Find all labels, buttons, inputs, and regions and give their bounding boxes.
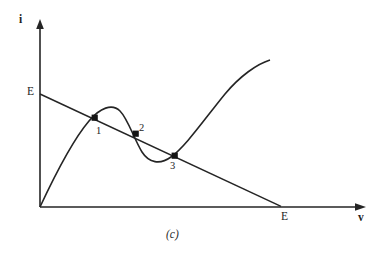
y-intercept-label: E bbox=[27, 86, 34, 98]
x-axis-label: v bbox=[358, 212, 364, 224]
figure-container: i E E v 1 2 3 (c) bbox=[0, 0, 390, 257]
iv-characteristic-plot bbox=[0, 0, 390, 257]
y-axis-label: i bbox=[19, 14, 22, 26]
operating-point-marker-3 bbox=[172, 153, 178, 159]
operating-point-marker-1 bbox=[92, 115, 98, 121]
operating-point-label-3: 3 bbox=[170, 161, 175, 172]
load-line bbox=[40, 94, 281, 206]
x-intercept-label: E bbox=[281, 211, 288, 223]
operating-point-label-2: 2 bbox=[139, 123, 144, 134]
figure-caption: (c) bbox=[166, 229, 179, 241]
y-axis-arrow-icon bbox=[36, 19, 44, 29]
operating-point-label-1: 1 bbox=[96, 126, 101, 137]
x-axis-arrow-icon bbox=[355, 203, 366, 211]
operating-point-marker-2 bbox=[133, 131, 139, 137]
